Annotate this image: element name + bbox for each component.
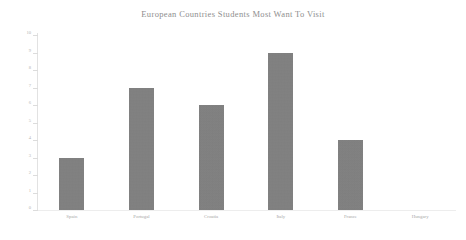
- y-axis-tick: [33, 210, 38, 211]
- y-axis-tick-label: 8: [5, 66, 31, 71]
- y-axis-tick-label-wrap: 9: [0, 49, 31, 57]
- bar-spain: [59, 158, 84, 211]
- y-axis-tick-label: 4: [5, 136, 31, 141]
- y-axis-tick-label: 3: [5, 154, 31, 159]
- y-axis-tick-label-wrap: 7: [0, 84, 31, 92]
- y-axis-tick-label: 9: [5, 49, 31, 54]
- plot-area: [37, 35, 455, 210]
- x-axis-label-italy: Italy: [246, 215, 316, 220]
- x-axis-label-france: France: [316, 215, 386, 220]
- y-axis-tick-label: 1: [5, 189, 31, 194]
- x-axis-label-hungary: Hungary: [385, 215, 455, 220]
- bar-croatia: [199, 105, 224, 210]
- bar-chart: European Countries Students Most Want To…: [0, 0, 466, 240]
- y-axis-tick-label-wrap: 8: [0, 66, 31, 74]
- chart-title: European Countries Students Most Want To…: [0, 9, 466, 19]
- y-axis-tick-label: 6: [5, 101, 31, 106]
- bar-italy: [268, 53, 293, 211]
- y-axis-tick-label-wrap: 0: [0, 206, 31, 214]
- x-axis-label-portugal: Portugal: [107, 215, 177, 220]
- y-axis-tick-label-wrap: 4: [0, 136, 31, 144]
- y-axis-tick-label: 10: [5, 31, 31, 36]
- y-axis-tick-label-wrap: 10: [0, 31, 31, 39]
- y-axis-tick-label-wrap: 3: [0, 154, 31, 162]
- bar-portugal: [129, 88, 154, 211]
- x-axis-label-croatia: Croatia: [176, 215, 246, 220]
- y-axis-tick-label: 5: [5, 119, 31, 124]
- x-axis-line: [37, 210, 456, 211]
- y-axis-tick-label-wrap: 6: [0, 101, 31, 109]
- y-axis-tick-label-wrap: 2: [0, 171, 31, 179]
- y-axis-tick-label: 2: [5, 171, 31, 176]
- y-axis-tick-label-wrap: 1: [0, 189, 31, 197]
- bar-france: [338, 140, 363, 210]
- x-axis-label-spain: Spain: [37, 215, 107, 220]
- y-axis-tick-label: 0: [5, 206, 31, 211]
- y-axis-tick-label: 7: [5, 84, 31, 89]
- y-axis-tick-label-wrap: 5: [0, 119, 31, 127]
